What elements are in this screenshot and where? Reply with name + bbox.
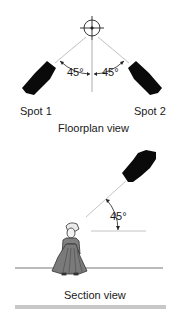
crosshair-icon — [80, 16, 104, 40]
spotlight-icon — [122, 150, 156, 182]
section-title: Section view — [64, 289, 126, 301]
person-icon — [52, 223, 87, 275]
spot1-label: Spot 1 — [20, 105, 52, 117]
lighting-diagram: 45° 45° Spot 1 Spot 2 Floorplan view 45°… — [0, 0, 194, 313]
section-view — [15, 150, 163, 275]
spotlight-icon — [128, 61, 162, 95]
spot2-label: Spot 2 — [134, 105, 166, 117]
floorplan-title: Floorplan view — [58, 122, 129, 134]
section-angle-label: 45° — [110, 210, 127, 222]
spot1-angle-label: 45° — [67, 66, 84, 78]
bottom-divider — [15, 305, 166, 309]
floorplan-view — [22, 16, 162, 95]
spot2-angle-label: 45° — [102, 66, 119, 78]
spotlight-icon — [22, 61, 56, 95]
